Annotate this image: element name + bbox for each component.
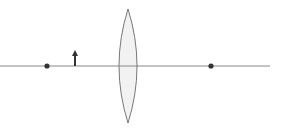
right-focal-point-dot [208, 63, 213, 68]
object-arrow-icon [72, 50, 78, 66]
lens-diagram [0, 0, 282, 132]
left-focal-point-dot [44, 63, 49, 68]
